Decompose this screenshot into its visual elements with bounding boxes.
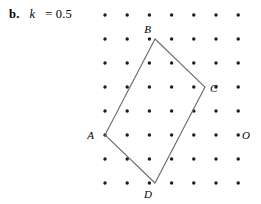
lattice-dot	[126, 109, 129, 112]
lattice-dot	[170, 61, 173, 64]
lattice-dot	[192, 85, 195, 88]
lattice-dot	[103, 37, 106, 40]
lattice-dot	[237, 37, 240, 40]
lattice-dot	[170, 109, 173, 112]
lattice-dot	[148, 109, 151, 112]
lattice-dot	[192, 61, 195, 64]
lattice-dot	[103, 61, 106, 64]
lattice-dot	[237, 181, 240, 184]
lattice-dot	[237, 157, 240, 160]
lattice-dot	[214, 37, 217, 40]
lattice-dot	[214, 61, 217, 64]
lattice-dot	[170, 157, 173, 160]
lattice-dot	[170, 13, 173, 16]
lattice-dot	[148, 37, 151, 40]
lattice-dot	[126, 61, 129, 64]
vertex-label-a: A	[86, 129, 94, 141]
lattice-dot	[103, 181, 106, 184]
lattice-dot	[148, 157, 151, 160]
lattice-dot	[126, 133, 129, 136]
lattice-dot	[237, 133, 240, 136]
lattice-dot	[214, 109, 217, 112]
lattice-dot	[170, 85, 173, 88]
lattice-dot	[103, 109, 106, 112]
lattice-dot	[148, 61, 151, 64]
lattice-dot	[148, 13, 151, 16]
lattice-dot	[126, 181, 129, 184]
vertex-label-c: C	[210, 82, 218, 94]
lattice-dot	[214, 133, 217, 136]
lattice-dot	[237, 13, 240, 16]
lattice-dot	[170, 181, 173, 184]
lattice-dot	[192, 13, 195, 16]
lattice-dot	[192, 37, 195, 40]
vertex-label-b: B	[144, 23, 151, 35]
lattice-dot	[214, 157, 217, 160]
lattice-dot	[237, 109, 240, 112]
lattice-dot	[148, 181, 151, 184]
lattice-dot	[148, 85, 151, 88]
lattice-dot	[237, 61, 240, 64]
lattice-dot	[126, 37, 129, 40]
lattice-dot	[237, 85, 240, 88]
lattice-dot	[192, 157, 195, 160]
dot-lattice-svg: ABCDO	[0, 0, 261, 204]
lattice-dot	[192, 133, 195, 136]
lattice-dot	[103, 13, 106, 16]
lattice-dot	[103, 85, 106, 88]
quadrilateral-abcd	[105, 39, 205, 183]
lattice-dot	[170, 133, 173, 136]
vertex-label-d: D	[143, 188, 152, 200]
vertex-label-group: ABCDO	[86, 23, 250, 200]
figure-panel: b. k = 0.5 ABCDO	[0, 0, 261, 204]
lattice-dot	[192, 181, 195, 184]
lattice-dot	[170, 37, 173, 40]
lattice-dot	[214, 181, 217, 184]
lattice-dot	[148, 133, 151, 136]
lattice-dot	[126, 13, 129, 16]
lattice-dot	[103, 157, 106, 160]
lattice-dot	[214, 13, 217, 16]
lattice-dot	[126, 85, 129, 88]
point-label-o: O	[242, 129, 250, 141]
